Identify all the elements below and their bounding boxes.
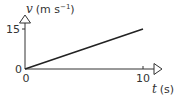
y-tick-label-15: 15 bbox=[6, 23, 20, 36]
velocity-line bbox=[25, 29, 143, 69]
y-tick-label-0: 0 bbox=[15, 63, 22, 76]
x-axis-arrow-icon bbox=[154, 64, 162, 75]
x-tick-label-0: 0 bbox=[23, 72, 30, 85]
x-tick-label-10: 10 bbox=[136, 72, 150, 85]
y-axis-arrow-icon bbox=[20, 15, 31, 23]
y-axis-label: v(m s−1) bbox=[26, 2, 75, 16]
x-axis-label: t(s) bbox=[152, 82, 174, 96]
velocity-time-graph: v(m s−1) 15 0 0 10 t(s) bbox=[0, 0, 175, 99]
